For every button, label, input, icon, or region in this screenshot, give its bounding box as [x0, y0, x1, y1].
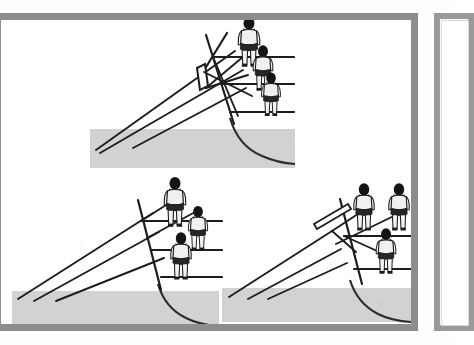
panel-bottom-left-artwork	[12, 177, 222, 326]
panel-bottom-right-artwork	[222, 183, 422, 322]
panel-top-artwork	[90, 17, 295, 168]
